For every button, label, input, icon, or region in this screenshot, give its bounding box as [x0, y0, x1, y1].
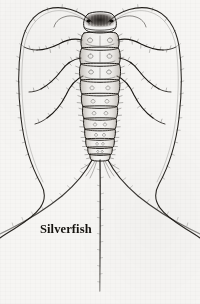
leg-left-3 — [47, 76, 83, 118]
body-group — [75, 12, 124, 161]
antenna-left — [0, 8, 92, 238]
leg-right-2-setae — [128, 57, 167, 91]
leg-left-2-setae — [33, 57, 72, 91]
leg-left-1 — [37, 39, 82, 50]
antenna-right — [108, 8, 200, 238]
leg-right-1-tarsus — [163, 47, 176, 50]
leg-right-1 — [118, 39, 163, 50]
illustration-plate: Silverfish — [0, 0, 200, 304]
leg-right-3-setae — [125, 79, 162, 123]
leg-left-2-tarsus — [29, 89, 41, 92]
eye-right — [109, 20, 113, 23]
cercus-right-setae — [112, 165, 188, 226]
eye-left — [86, 20, 90, 23]
leg-right-2-tarsus — [159, 89, 171, 92]
figure-caption: Silverfish — [40, 223, 92, 236]
leg-right-3 — [117, 76, 153, 118]
cerci-group — [0, 160, 200, 291]
leg-left-3-setae — [38, 79, 75, 123]
cercus-left-setae — [12, 165, 88, 226]
leg-left-3-tarsus — [35, 118, 47, 124]
leg-right-3-tarsus — [153, 118, 165, 124]
cercus-right — [108, 160, 200, 234]
figure-ink — [0, 5, 200, 291]
leg-left-1-tarsus — [24, 47, 37, 50]
leg-right-2 — [119, 58, 159, 89]
silverfish-figure — [0, 0, 200, 304]
leg-left-2 — [41, 58, 81, 89]
